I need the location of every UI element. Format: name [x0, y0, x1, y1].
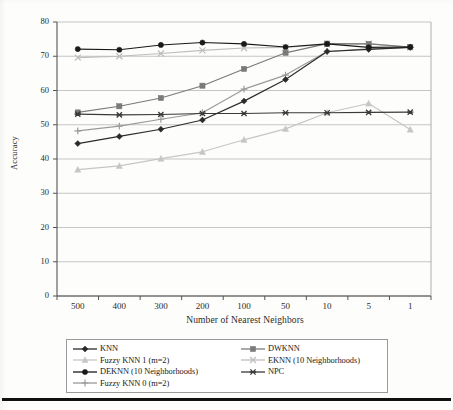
data-point-marker	[407, 109, 413, 114]
marker-plus	[241, 86, 248, 93]
legend-marker-triangle-icon	[72, 355, 98, 365]
marker-circle	[241, 41, 246, 46]
x-tick-label: 200	[185, 301, 219, 311]
data-point-marker	[241, 66, 246, 71]
marker-asterisk	[407, 109, 413, 114]
data-point-marker	[117, 47, 122, 52]
chart-legend: KNNDWKNNFuzzy KNN 1 (m=2)EKNN (10 Neighb…	[66, 339, 388, 393]
series-fuzzy-knn-0-m-2	[74, 44, 413, 134]
y-tick-label: 40	[27, 153, 49, 163]
marker-plus	[116, 123, 123, 130]
legend-entry: DEKNN (10 Neighborhoods)	[72, 366, 240, 377]
marker-diamond	[116, 133, 122, 139]
x-tick-label: 300	[144, 301, 178, 311]
y-axis-title: Accuracy	[9, 113, 19, 193]
legend-entry: NPC	[240, 366, 390, 377]
marker-circle	[366, 45, 371, 50]
data-point-marker	[241, 111, 247, 116]
marker-asterisk	[241, 111, 247, 116]
marker-diamond	[75, 141, 81, 147]
legend-entry: KNN	[72, 343, 240, 354]
marker-circle	[117, 47, 122, 52]
data-point-marker	[241, 41, 246, 46]
marker-circle	[200, 40, 205, 45]
page-root: Accuracy Number of Nearest Neighbors 010…	[0, 0, 453, 410]
page-bottom-rule	[2, 398, 451, 401]
data-point-marker	[82, 346, 88, 352]
marker-circle	[75, 46, 80, 51]
marker-diamond	[199, 117, 205, 123]
data-point-marker	[407, 126, 413, 132]
data-point-marker	[82, 369, 87, 374]
data-point-marker	[75, 141, 81, 147]
data-point-marker	[283, 44, 288, 49]
marker-circle	[283, 44, 288, 49]
data-point-marker	[366, 100, 372, 106]
y-tick-label: 60	[27, 85, 49, 95]
y-tick-label: 10	[27, 256, 49, 266]
legend-marker-asterisk-icon	[240, 367, 266, 377]
series-line	[78, 47, 410, 143]
legend-label: Fuzzy KNN 0 (m=2)	[100, 378, 169, 389]
marker-asterisk	[282, 110, 288, 115]
marker-diamond	[158, 126, 164, 132]
data-point-marker	[241, 86, 248, 93]
gridlines	[57, 22, 431, 296]
x-tick-label: 10	[310, 301, 344, 311]
x-tick-label: 1	[393, 301, 427, 311]
y-tick-label: 0	[27, 290, 49, 300]
marker-square	[241, 66, 246, 71]
legend-marker-plus-icon	[72, 378, 98, 388]
legend-label: DEKNN (10 Neighborhoods)	[100, 366, 198, 377]
data-point-marker	[250, 369, 256, 374]
x-axis-title: Number of Nearest Neighbors	[55, 315, 435, 325]
legend-label: KNN	[100, 343, 118, 354]
data-point-marker	[158, 95, 163, 100]
accuracy-vs-neighbors-chart: Accuracy Number of Nearest Neighbors 010…	[0, 0, 453, 410]
data-point-marker	[365, 110, 371, 115]
legend-entry: Fuzzy KNN 1 (m=2)	[72, 355, 240, 366]
data-point-marker	[199, 117, 205, 123]
legend-marker-circle-icon	[72, 367, 98, 377]
legend-marker-diamond-icon	[72, 344, 98, 354]
data-point-marker	[82, 380, 89, 387]
data-point-marker	[366, 45, 371, 50]
data-point-marker	[200, 83, 205, 88]
data-point-marker	[75, 46, 80, 51]
data-point-marker	[282, 110, 288, 115]
legend-label: Fuzzy KNN 1 (m=2)	[100, 355, 169, 366]
axes	[53, 22, 431, 300]
marker-circle	[82, 369, 87, 374]
data-point-marker	[116, 123, 123, 130]
marker-asterisk	[250, 369, 256, 374]
marker-square	[283, 50, 288, 55]
y-tick-label: 50	[27, 119, 49, 129]
x-tick-label: 500	[61, 301, 95, 311]
y-tick-label: 80	[27, 16, 49, 26]
marker-square	[250, 346, 255, 351]
data-point-marker	[158, 42, 163, 47]
x-tick-label: 100	[227, 301, 261, 311]
legend-label: NPC	[268, 366, 284, 377]
data-point-marker	[408, 44, 413, 49]
series-npc	[75, 109, 414, 117]
y-tick-label: 70	[27, 50, 49, 60]
marker-asterisk	[116, 112, 122, 117]
x-tick-label: 5	[352, 301, 386, 311]
data-point-marker	[200, 40, 205, 45]
series-knn	[75, 44, 413, 146]
legend-marker-square-icon	[240, 344, 266, 354]
marker-plus	[82, 380, 89, 387]
data-point-marker	[325, 41, 330, 46]
x-tick-label: 400	[102, 301, 136, 311]
marker-asterisk	[365, 110, 371, 115]
plot-area	[0, 0, 453, 340]
data-point-marker	[74, 128, 81, 135]
marker-triangle	[407, 126, 413, 132]
data-point-marker	[158, 126, 164, 132]
marker-plus	[74, 128, 81, 135]
y-tick-label: 20	[27, 222, 49, 232]
marker-square	[200, 83, 205, 88]
legend-label: EKNN (10 Neighborhoods)	[268, 355, 360, 366]
legend-entry: Fuzzy KNN 0 (m=2)	[72, 378, 240, 389]
